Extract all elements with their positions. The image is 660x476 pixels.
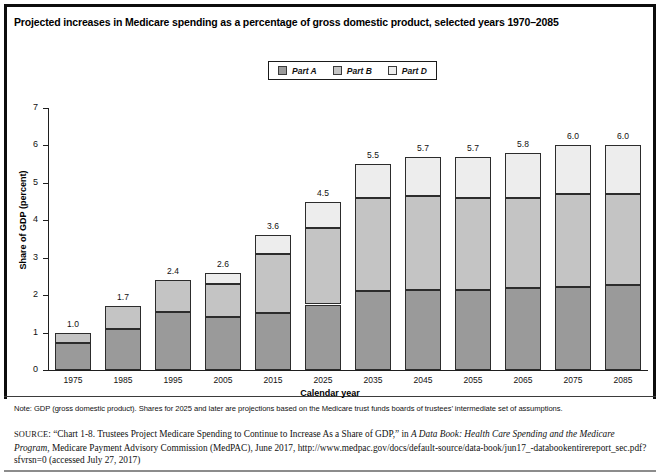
bar-segment-part-a	[555, 287, 591, 370]
x-axis-title: Calendar year	[0, 388, 660, 398]
bar-segment-part-d	[355, 164, 391, 198]
bar-segment-part-a	[255, 313, 291, 370]
chart-source: SOURCE: “Chart 1-8. Trustees Project Med…	[14, 428, 650, 467]
bar-segment-part-b	[455, 198, 491, 290]
source-text-part1: : “Chart 1-8. Trustees Project Medicare …	[48, 429, 411, 439]
x-axis-tick-label-2045: 2045	[401, 375, 445, 385]
bar-segment-part-b	[505, 198, 541, 289]
bar-2025[interactable]	[305, 108, 341, 370]
bar-value-label: 5.8	[501, 139, 545, 149]
y-axis-tick	[43, 220, 48, 221]
bar-2005[interactable]	[205, 108, 241, 370]
x-axis-tick-label-1975: 1975	[51, 375, 95, 385]
bar-2035[interactable]	[355, 108, 391, 370]
bar-segment-part-b	[255, 254, 291, 313]
chart-note: Note: GDP (gross domestic product). Shar…	[14, 404, 652, 414]
bar-segment-part-d	[605, 145, 641, 194]
bar-2075[interactable]	[555, 108, 591, 370]
bar-segment-part-d	[205, 273, 241, 284]
bar-segment-part-a	[405, 290, 441, 370]
y-axis-tick	[43, 370, 48, 371]
y-axis-tick-label: 0	[24, 364, 38, 374]
bar-value-label: 5.5	[351, 150, 395, 160]
y-axis-tick	[43, 108, 48, 109]
bar-segment-part-a	[355, 291, 391, 370]
bar-segment-part-a	[305, 305, 341, 371]
y-axis-title: Share of GDP (percent)	[18, 160, 28, 280]
bar-segment-part-a	[455, 290, 491, 370]
bar-segment-part-d	[305, 202, 341, 228]
bar-segment-part-b	[605, 194, 641, 285]
y-axis-tick-label: 1	[24, 327, 38, 337]
x-axis-line	[48, 370, 648, 371]
bar-1995[interactable]	[155, 108, 191, 370]
bar-segment-part-a	[505, 288, 541, 370]
bar-segment-part-d	[455, 157, 491, 198]
figure-container: Projected increases in Medicare spending…	[0, 0, 660, 476]
bar-segment-part-b	[105, 306, 141, 328]
bar-1985[interactable]	[105, 108, 141, 370]
bar-segment-part-b	[555, 194, 591, 287]
bar-segment-part-a	[205, 317, 241, 370]
source-text-part2: , Medicare Payment Advisory Commission (…	[14, 443, 646, 466]
x-axis-tick-label-2085: 2085	[601, 375, 645, 385]
bar-segment-part-a	[155, 312, 191, 370]
bar-segment-part-d	[555, 145, 591, 194]
bar-value-label: 4.5	[301, 188, 345, 198]
bar-value-label: 5.7	[451, 143, 495, 153]
bar-segment-part-b	[305, 228, 341, 305]
x-axis-tick-label-2075: 2075	[551, 375, 595, 385]
y-axis-tick-label: 6	[24, 139, 38, 149]
bar-segment-part-d	[505, 153, 541, 198]
bar-segment-part-b	[205, 284, 241, 317]
bar-segment-part-d	[255, 235, 291, 254]
bar-value-label: 5.7	[401, 143, 445, 153]
y-axis-tick	[43, 333, 48, 334]
bar-value-label: 6.0	[601, 131, 645, 141]
bar-segment-part-b	[405, 196, 441, 290]
bar-segment-part-a	[105, 329, 141, 370]
bar-2015[interactable]	[255, 108, 291, 370]
chart-plot-area: 01234567Share of GDP (percent)1.019751.7…	[0, 0, 660, 400]
x-axis-tick-label-2055: 2055	[451, 375, 495, 385]
bar-segment-part-a	[55, 343, 91, 370]
bar-segment-part-a	[605, 285, 641, 370]
x-axis-tick-label-1985: 1985	[101, 375, 145, 385]
y-axis-tick	[43, 145, 48, 146]
bar-value-label: 2.4	[151, 266, 195, 276]
bar-segment-part-b	[55, 333, 91, 343]
x-axis-tick-label-2035: 2035	[351, 375, 395, 385]
y-axis-tick	[43, 295, 48, 296]
bar-value-label: 2.6	[201, 259, 245, 269]
bar-1975[interactable]	[55, 108, 91, 370]
bar-2085[interactable]	[605, 108, 641, 370]
source-label: SOURCE	[14, 430, 48, 439]
x-axis-tick-label-2015: 2015	[251, 375, 295, 385]
y-axis-tick	[43, 183, 48, 184]
x-axis-tick-label-2005: 2005	[201, 375, 245, 385]
bar-value-label: 6.0	[551, 131, 595, 141]
y-axis-tick	[43, 258, 48, 259]
y-axis-line	[48, 108, 49, 371]
x-axis-tick-label-2065: 2065	[501, 375, 545, 385]
bar-segment-part-b	[355, 198, 391, 292]
bar-value-label: 3.6	[251, 221, 295, 231]
bar-segment-part-b	[155, 280, 191, 312]
y-axis-tick-label: 7	[24, 102, 38, 112]
x-axis-tick-label-1995: 1995	[151, 375, 195, 385]
bar-value-label: 1.7	[101, 292, 145, 302]
bar-value-label: 1.0	[51, 319, 95, 329]
x-axis-tick-label-2025: 2025	[301, 375, 345, 385]
frame-bottom-rule	[4, 470, 656, 472]
y-axis-tick-label: 2	[24, 289, 38, 299]
bar-segment-part-d	[405, 157, 441, 196]
